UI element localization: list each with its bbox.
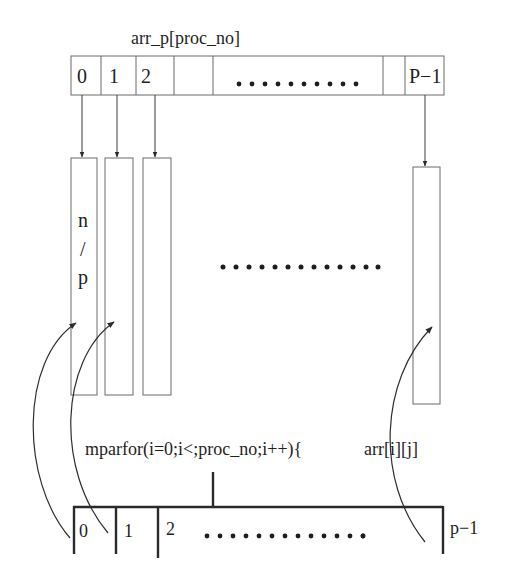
top-cell-1: 1 <box>109 65 119 87</box>
memory-columns: n / p <box>71 158 440 404</box>
bottom-cell-last: p−1 <box>450 518 478 538</box>
top-cell-last: P−1 <box>409 65 441 87</box>
column-0-label-slash: / <box>80 238 86 260</box>
column-last <box>413 167 440 404</box>
top-cell-2: 2 <box>141 65 151 87</box>
mapping-curves <box>33 322 432 542</box>
top-array-label: arr_p[proc_no] <box>131 28 240 48</box>
array-access: arr[i][j] <box>364 439 418 459</box>
bottom-array: 0 1 2 p−1 <box>73 472 478 558</box>
column-0-label-p: p <box>78 266 88 289</box>
bottom-cell-1: 1 <box>124 521 133 541</box>
top-array: 0 1 2 P−1 <box>71 56 444 95</box>
pointer-arrows <box>82 95 425 166</box>
bottom-cell-2: 2 <box>166 519 175 539</box>
column-1 <box>105 158 133 395</box>
bottom-ellipsis <box>205 534 366 539</box>
top-cell-0: 0 <box>77 65 87 87</box>
distribution-diagram: arr_p[proc_no] 0 1 2 P−1 <box>0 0 507 588</box>
column-2 <box>143 158 171 395</box>
column-0-label-n: n <box>78 209 88 231</box>
middle-ellipsis <box>221 265 381 270</box>
top-ellipsis <box>237 82 359 87</box>
loop-code: mparfor(i=0;i<;proc_no;i++){ <box>85 439 302 460</box>
bottom-cell-0: 0 <box>79 521 88 541</box>
